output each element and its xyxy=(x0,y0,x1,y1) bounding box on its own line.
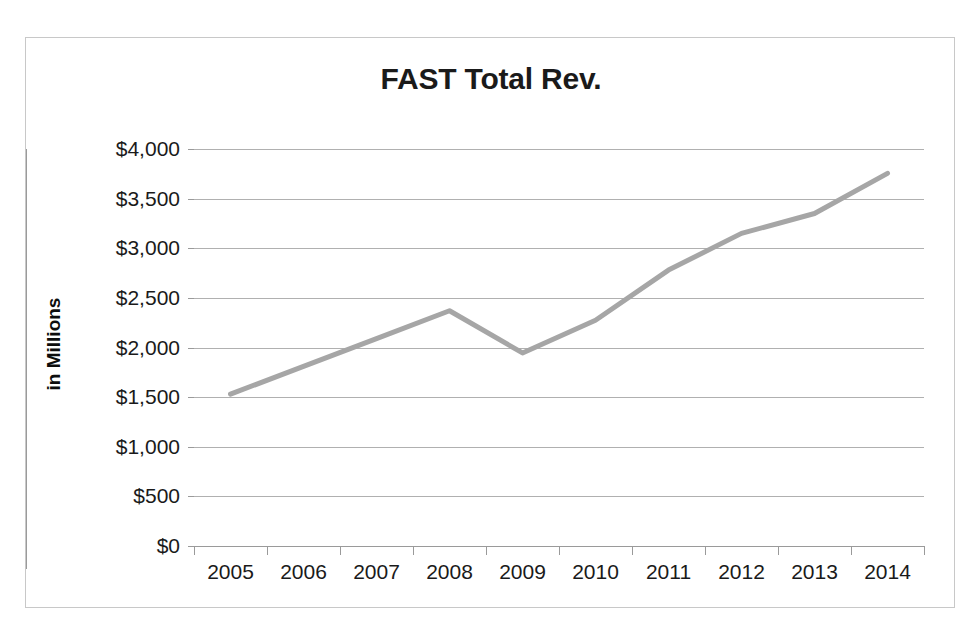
x-axis-tick xyxy=(486,546,487,555)
y-axis-label: $0 xyxy=(44,534,180,558)
x-axis-tick xyxy=(924,546,925,555)
y-axis-label: $3,500 xyxy=(44,187,180,211)
x-axis-tick xyxy=(194,546,195,555)
x-axis-tick xyxy=(267,546,268,555)
x-axis-tick xyxy=(340,546,341,555)
data-series-line xyxy=(194,149,924,546)
chart-title: FAST Total Rev. xyxy=(26,62,956,96)
y-axis-label: $3,000 xyxy=(44,236,180,260)
y-axis-label: $2,500 xyxy=(44,286,180,310)
y-axis-label: $500 xyxy=(44,484,180,508)
x-axis-tick xyxy=(851,546,852,555)
y-axis-label: $1,500 xyxy=(44,385,180,409)
chart-frame: FAST Total Rev. in Millions $4,000$3,500… xyxy=(25,37,955,608)
y-axis-label: $1,000 xyxy=(44,435,180,459)
clipped-top-text xyxy=(0,0,980,5)
y-axis-label: $4,000 xyxy=(44,137,180,161)
x-axis-tick xyxy=(705,546,706,555)
x-axis-tick xyxy=(559,546,560,555)
y-axis-line xyxy=(26,149,27,569)
x-axis: 2005200620072008200920102011201220132014 xyxy=(194,546,924,606)
x-axis-tick xyxy=(632,546,633,555)
x-axis-label: 2014 xyxy=(843,560,933,584)
plot-area xyxy=(194,149,924,546)
y-axis-label: $2,000 xyxy=(44,336,180,360)
x-axis-tick xyxy=(413,546,414,555)
x-axis-tick xyxy=(778,546,779,555)
